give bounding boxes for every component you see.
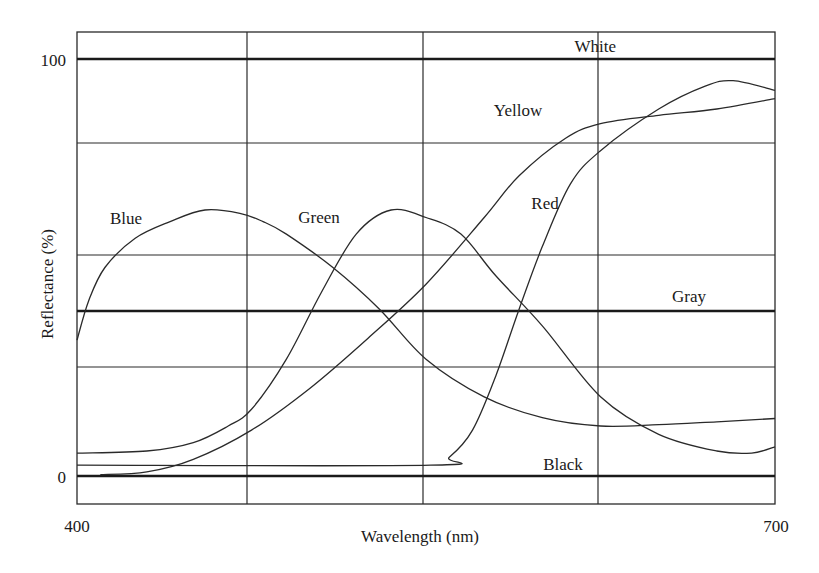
y-tick-0: 0 [58, 468, 67, 487]
red-label: Red [531, 194, 559, 213]
curves [77, 81, 775, 475]
y-axis-title: Reflectance (%) [38, 229, 57, 339]
gray-label: Gray [672, 287, 706, 306]
red-curve [77, 81, 775, 466]
blue-label: Blue [110, 209, 142, 228]
black-label: Black [543, 455, 583, 474]
green-curve [77, 209, 775, 453]
x-tick-400: 400 [64, 517, 90, 536]
y-tick-100: 100 [41, 51, 67, 70]
x-axis-title: Wavelength (nm) [361, 527, 479, 546]
green-label: Green [298, 208, 340, 227]
yellow-label: Yellow [494, 101, 543, 120]
x-tick-700: 700 [763, 517, 789, 536]
blue-curve [77, 210, 775, 427]
reflectance-chart: White Yellow Blue Green Red Gray Black 1… [0, 0, 819, 573]
white-label: White [574, 37, 616, 56]
